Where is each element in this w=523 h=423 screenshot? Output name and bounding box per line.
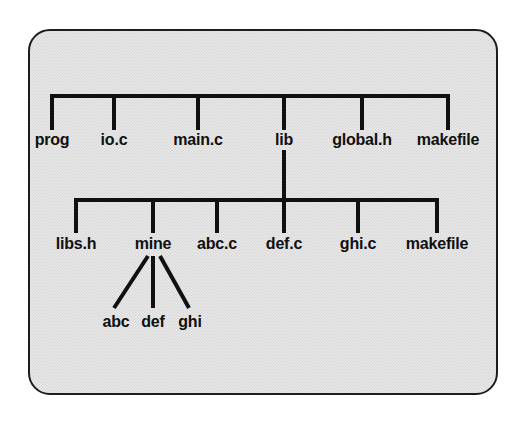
node-io-c[interactable]: io.c <box>101 132 128 148</box>
node-makefile[interactable]: makefile <box>417 132 479 148</box>
node-ghi-c[interactable]: ghi.c <box>340 236 376 252</box>
node-makefile-2[interactable]: makefile <box>406 236 468 252</box>
node-abc[interactable]: abc <box>103 314 130 330</box>
node-abc-c[interactable]: abc.c <box>197 236 237 252</box>
node-main-c[interactable]: main.c <box>173 132 223 148</box>
node-def[interactable]: def <box>141 314 164 330</box>
diagram-stage: prog io.c main.c lib global.h makefile l… <box>0 0 523 423</box>
node-def-c[interactable]: def.c <box>266 236 302 252</box>
node-lib[interactable]: lib <box>275 132 293 148</box>
diagram-panel <box>28 29 498 395</box>
node-ghi[interactable]: ghi <box>178 314 201 330</box>
node-global-h[interactable]: global.h <box>332 132 392 148</box>
node-prog[interactable]: prog <box>35 132 70 148</box>
node-mine[interactable]: mine <box>135 236 172 252</box>
node-libs-h[interactable]: libs.h <box>56 236 97 252</box>
